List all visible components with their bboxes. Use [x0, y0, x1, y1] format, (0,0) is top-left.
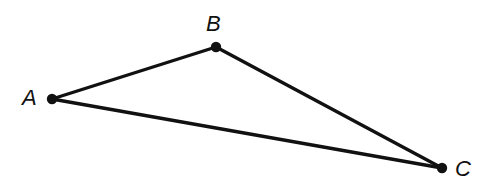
vertex-dot-b [211, 42, 221, 52]
vertex-dot-a [47, 94, 57, 104]
vertex-label-a: A [22, 87, 37, 109]
vertex-label-b: B [206, 13, 221, 35]
triangle-diagram [0, 0, 491, 191]
geometry-figure: A B C [0, 0, 491, 191]
vertex-dot-c [437, 163, 447, 173]
vertex-label-c: C [455, 158, 471, 180]
